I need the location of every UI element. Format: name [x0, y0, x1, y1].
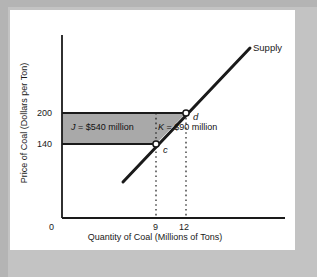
y-tick-label-200: 200	[37, 108, 52, 118]
region-j-text: = $540 million	[76, 122, 134, 132]
point-label-d: d	[193, 111, 198, 122]
data-point-c[interactable]	[153, 141, 159, 147]
chart-panel: Price of Coal (Dollars per Ton) Quantity…	[10, 10, 295, 250]
screenshot-canvas: Price of Coal (Dollars per Ton) Quantity…	[0, 0, 317, 277]
y-axis-title: Price of Coal (Dollars per Ton)	[19, 48, 29, 198]
supply-curve-label: Supply	[253, 42, 282, 53]
region-label-j: J = $540 million	[71, 122, 134, 132]
frame-top-shadow	[0, 0, 317, 7]
y-tick-label-140: 140	[37, 139, 52, 149]
point-label-c: c	[163, 144, 168, 155]
x-tick-label-12: 12	[179, 222, 189, 232]
region-k-text: = $90 million	[164, 122, 217, 132]
x-tick-label-9: 9	[153, 222, 158, 232]
x-tick-label-0: 0	[49, 222, 54, 232]
plot-area: Price of Coal (Dollars per Ton) Quantity…	[10, 10, 295, 250]
x-axis-title: Quantity of Coal (Millions of Tons)	[35, 232, 275, 242]
data-point-d[interactable]	[183, 110, 189, 116]
region-label-k: K = $90 million	[158, 122, 217, 132]
frame-left-shadow	[0, 0, 8, 277]
